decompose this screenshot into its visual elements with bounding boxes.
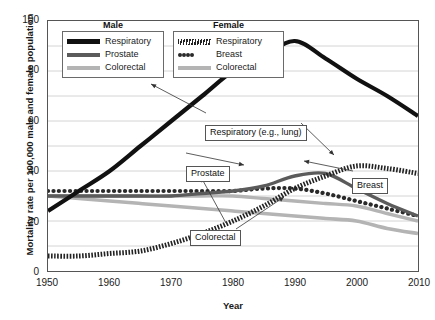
dotted-line-icon — [178, 49, 211, 60]
x-tick-2000: 2000 — [335, 277, 379, 288]
legend-item-male-prostate[interactable]: Prostate — [67, 48, 159, 61]
solid-black-line-icon — [67, 36, 100, 47]
legend-item-female-breast[interactable]: Breast — [178, 48, 279, 61]
solid-dark-gray-line-icon — [67, 49, 100, 60]
legend-female: Respiratory Breast Colorectal — [173, 31, 284, 78]
callout-prostate: Prostate — [186, 166, 230, 182]
legend-label: Respiratory — [105, 36, 151, 47]
callout-respiratory: Respiratory (e.g., lung) — [205, 125, 307, 141]
x-tick-1960: 1960 — [87, 277, 131, 288]
callout-breast: Breast — [352, 178, 388, 194]
legend-item-male-respiratory[interactable]: Respiratory — [67, 35, 159, 48]
solid-light-gray-line-icon — [67, 62, 100, 73]
x-axis-title: Year — [47, 300, 419, 311]
legend-item-female-colorectal[interactable]: Colorectal — [178, 61, 279, 74]
x-tick-1970: 1970 — [149, 277, 193, 288]
y-tick-100: 100 — [5, 14, 39, 25]
y-tick-40: 40 — [5, 165, 39, 176]
legend-item-female-respiratory[interactable]: Respiratory — [178, 35, 279, 48]
y-tick-60: 60 — [5, 115, 39, 126]
legend-label: Prostate — [105, 49, 139, 60]
series-line — [48, 196, 418, 234]
legend-male: Respiratory Prostate Colorectal — [62, 31, 164, 78]
x-tick-1990: 1990 — [273, 277, 317, 288]
y-tick-80: 80 — [5, 64, 39, 75]
legend-label: Colorectal — [105, 62, 146, 73]
legend-title-female: Female — [173, 20, 284, 30]
y-tick-0: 0 — [5, 266, 39, 277]
y-tick-20: 20 — [5, 216, 39, 227]
solid-light-gray-line-icon — [178, 62, 211, 73]
hatched-line-icon — [178, 36, 211, 47]
x-tick-1980: 1980 — [211, 277, 255, 288]
legend-title-male: Male — [62, 20, 164, 30]
legend-label: Respiratory — [216, 36, 262, 47]
x-tick-1950: 1950 — [25, 277, 69, 288]
legend-label: Colorectal — [216, 62, 257, 73]
callout-colorectal: Colorectal — [190, 230, 241, 246]
x-tick-2010: 2010 — [397, 277, 435, 288]
legend-label: Breast — [216, 49, 242, 60]
legend-item-male-colorectal[interactable]: Colorectal — [67, 61, 159, 74]
